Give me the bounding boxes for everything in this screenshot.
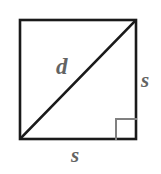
- side-label-right: s: [141, 70, 149, 91]
- geometry-figure: d s s: [0, 0, 161, 174]
- figure-canvas: [0, 0, 161, 174]
- side-label-bottom: s: [71, 145, 79, 166]
- diagonal-label: d: [56, 55, 68, 78]
